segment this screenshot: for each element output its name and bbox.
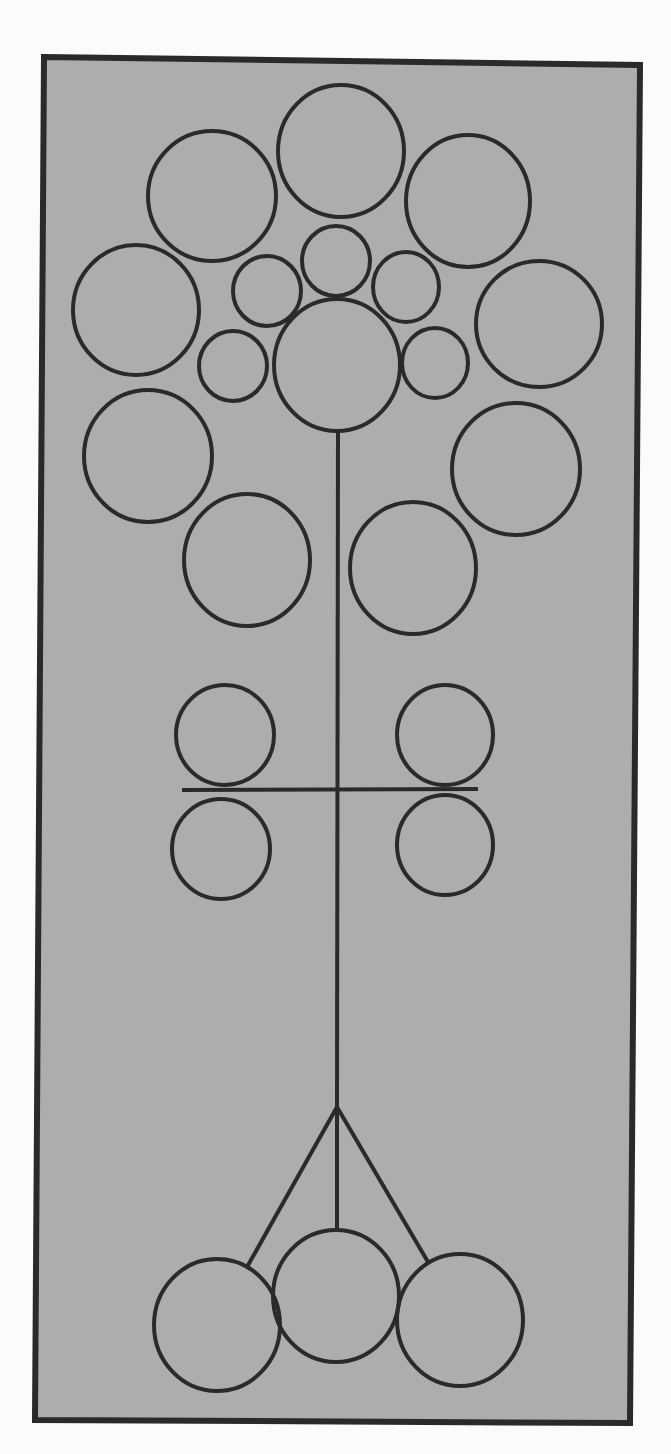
tree-of-circles-diagram	[0, 0, 671, 1454]
crossbar-line	[182, 789, 478, 790]
diagram-canvas	[0, 0, 671, 1454]
stem-line	[337, 431, 338, 1107]
